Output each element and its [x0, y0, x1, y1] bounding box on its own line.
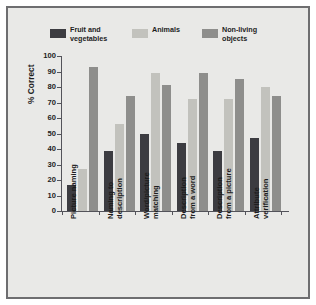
bar	[162, 85, 171, 211]
legend-swatch-animals	[132, 29, 148, 38]
y-axis-tick-label: 70	[48, 98, 56, 107]
y-axis-tick	[57, 56, 61, 57]
y-axis-line	[61, 56, 62, 211]
legend-item-animals: Animals	[132, 28, 194, 52]
x-axis-tick-label: Word/picture matching	[142, 172, 160, 219]
y-axis-tick	[57, 72, 61, 73]
plot-area: 0102030405060708090100 Picture namingNam…	[61, 56, 289, 211]
y-axis-tick-label: 40	[48, 144, 56, 153]
x-axis-tick	[208, 211, 209, 215]
bar	[126, 96, 135, 211]
x-axis-tick	[245, 211, 246, 215]
bar	[78, 169, 87, 211]
y-axis-tick	[57, 165, 61, 166]
y-axis-tick-label: 20	[48, 175, 56, 184]
y-axis-tick	[57, 103, 61, 104]
y-axis-tick-label: 10	[48, 191, 56, 200]
legend-item-fruit-and-vegetables: Fruit and vegetables	[50, 28, 124, 52]
x-axis-tick	[135, 211, 136, 215]
x-axis-tick-label: Description from a word	[179, 176, 197, 219]
chart-figure: Fruit and vegetables Animals Non-living …	[6, 6, 310, 299]
y-axis-label: % Correct	[26, 64, 36, 104]
y-axis-tick	[57, 134, 61, 135]
y-axis-tick-label: 100	[43, 51, 56, 60]
x-axis-tick-label: Attribute verification	[252, 178, 270, 219]
y-axis-tick-label: 80	[48, 82, 56, 91]
x-axis-tick	[281, 211, 282, 215]
x-axis-tick	[172, 211, 173, 215]
x-axis-tick-label: Description from a picture	[215, 168, 233, 219]
y-axis-tick-label: 30	[48, 160, 56, 169]
legend-swatch-fruit-and-vegetables	[50, 29, 66, 38]
bar	[89, 67, 98, 211]
legend-label-fruit-and-vegetables: Fruit and vegetables	[70, 26, 107, 43]
chart-legend: Fruit and vegetables Animals Non-living …	[50, 28, 300, 54]
y-axis-tick	[57, 180, 61, 181]
y-axis-tick	[57, 87, 61, 88]
y-axis-tick-label: 60	[48, 113, 56, 122]
bar	[272, 96, 281, 211]
legend-label-animals: Animals	[152, 26, 180, 35]
bar	[235, 79, 244, 211]
y-axis-tick	[57, 196, 61, 197]
y-axis-tick	[57, 149, 61, 150]
x-axis-tick	[62, 211, 63, 215]
y-axis-tick-label: 0	[52, 206, 56, 215]
x-axis-tick	[99, 211, 100, 215]
legend-label-non-living-objects: Non-living objects	[222, 26, 257, 43]
legend-swatch-non-living-objects	[202, 29, 218, 38]
y-axis-tick-label: 90	[48, 67, 56, 76]
x-axis-tick-label: Picture naming	[69, 164, 78, 219]
bar	[199, 73, 208, 211]
y-axis-tick	[57, 118, 61, 119]
y-axis-tick-label: 50	[48, 129, 56, 138]
legend-item-non-living-objects: Non-living objects	[202, 28, 294, 52]
x-axis-tick-label: Naming to description	[106, 178, 124, 219]
y-axis-tick	[57, 211, 61, 212]
